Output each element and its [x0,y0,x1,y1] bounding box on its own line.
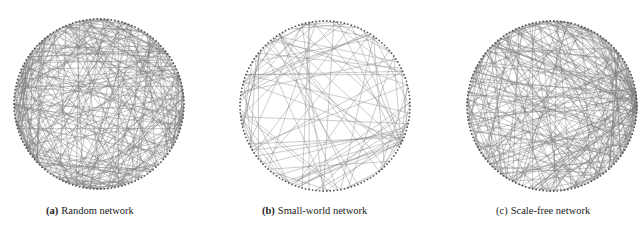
subfigure-tag-c: (c) [496,205,508,216]
subfigure-tag-b: (b) [262,205,275,216]
caption-small-world-network: (b)Small-world network [262,205,367,216]
edges [14,19,184,189]
panel-scale-free-network: (c)Scale-free network [428,0,642,236]
caption-scale-free-network: (c)Scale-free network [496,205,590,216]
edges [240,21,410,191]
random-network-graph [0,0,214,200]
caption-random-network: (a)Random network [46,205,134,216]
panel-random-network: (a)Random network [0,0,214,236]
caption-text-c: Scale-free network [511,205,591,216]
subfigure-tag-a: (a) [46,205,58,216]
panel-small-world-network: (b)Small-world network [214,0,428,236]
edges [467,21,637,191]
small-world-network-graph [214,0,428,200]
caption-text-a: Random network [61,205,134,216]
caption-text-b: Small-world network [278,205,368,216]
scale-free-network-graph [428,0,642,200]
